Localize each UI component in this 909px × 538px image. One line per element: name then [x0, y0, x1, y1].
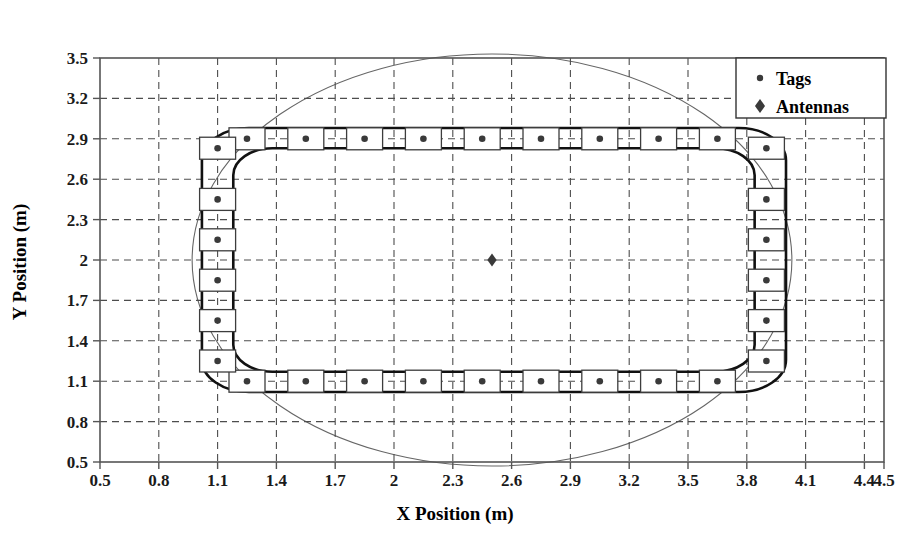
- x-tick-label: 3.8: [736, 471, 757, 490]
- tag-marker: [347, 128, 383, 150]
- y-tick-label: 2.6: [67, 170, 88, 189]
- tag-marker: [748, 269, 784, 291]
- y-tick-label: 1.1: [67, 372, 88, 391]
- tag-dot-icon: [655, 136, 662, 143]
- tag-dot-icon: [714, 136, 721, 143]
- tag-marker: [748, 229, 784, 251]
- tag-marker: [699, 128, 735, 150]
- x-tick-label: 1.4: [266, 471, 288, 490]
- tag-dot-icon: [214, 145, 221, 152]
- tag-marker: [200, 188, 236, 210]
- y-tick-label: 3.5: [67, 49, 88, 68]
- tag-dot-icon: [655, 378, 662, 385]
- tag-marker: [200, 269, 236, 291]
- tag-marker: [748, 350, 784, 372]
- tag-dot-icon: [763, 277, 770, 284]
- tag-marker: [405, 128, 441, 150]
- tag-marker: [464, 370, 500, 392]
- tag-dot-icon: [214, 358, 221, 365]
- tag-marker: [641, 128, 677, 150]
- y-tick-label: 2.9: [67, 130, 88, 149]
- tag-marker: [523, 370, 559, 392]
- x-tick-label: 3.5: [677, 471, 698, 490]
- tag-dot-icon: [214, 237, 221, 244]
- tag-dot-icon: [538, 378, 545, 385]
- tag-dot-icon: [763, 196, 770, 203]
- x-tick-label: 3.2: [619, 471, 640, 490]
- x-tick-label: 4.5: [873, 471, 894, 490]
- tag-dot-icon: [538, 136, 545, 143]
- x-tick-label: 0.5: [89, 471, 110, 490]
- tag-dot-icon: [303, 378, 310, 385]
- x-tick-label: 2: [390, 471, 399, 490]
- position-scatter-plot: 0.50.81.11.41.722.32.62.93.23.53.84.14.4…: [0, 0, 909, 538]
- tag-marker: [464, 128, 500, 150]
- tag-dot-icon: [361, 378, 368, 385]
- tag-marker: [523, 128, 559, 150]
- tag-dot-icon: [420, 378, 427, 385]
- y-tick-label: 0.8: [67, 413, 88, 432]
- x-tick-label: 4.1: [795, 471, 816, 490]
- tag-marker: [582, 128, 618, 150]
- tag-dot-icon: [214, 277, 221, 284]
- tag-dot-icon: [479, 378, 486, 385]
- tag-dot-icon: [214, 317, 221, 324]
- tag-marker: [200, 310, 236, 332]
- legend-label-antennas: Antennas: [776, 97, 849, 117]
- tag-marker: [288, 370, 324, 392]
- tag-marker: [229, 370, 265, 392]
- tag-dot-icon: [763, 358, 770, 365]
- x-tick-label: 1.7: [325, 471, 347, 490]
- x-tick-label: 4.4: [854, 471, 876, 490]
- tag-marker: [748, 137, 784, 159]
- x-tick-label: 2.3: [442, 471, 463, 490]
- chart-legend: TagsAntennas: [736, 58, 886, 118]
- tag-dot-icon: [763, 317, 770, 324]
- tag-marker: [200, 229, 236, 251]
- tag-dot-icon: [763, 237, 770, 244]
- x-axis-title: X Position (m): [396, 503, 513, 525]
- y-tick-label: 1.7: [67, 291, 89, 310]
- tag-marker: [699, 370, 735, 392]
- y-tick-label: 2.3: [67, 211, 88, 230]
- tag-dot-icon: [244, 378, 251, 385]
- tag-marker: [748, 310, 784, 332]
- tag-marker: [405, 370, 441, 392]
- tag-dot-icon: [479, 136, 486, 143]
- tag-dot-icon: [420, 136, 427, 143]
- tag-marker: [582, 370, 618, 392]
- x-tick-label: 0.8: [148, 471, 169, 490]
- tag-marker: [200, 350, 236, 372]
- tag-marker: [748, 188, 784, 210]
- y-tick-label: 3.2: [67, 89, 88, 108]
- y-tick-label: 1.4: [67, 332, 89, 351]
- tag-dot-icon: [763, 145, 770, 152]
- tag-dot-icon: [597, 378, 604, 385]
- tag-dot-icon: [597, 136, 604, 143]
- tag-marker: [641, 370, 677, 392]
- tag-marker: [288, 128, 324, 150]
- tag-dot-icon: [244, 136, 251, 143]
- tag-dot-icon: [214, 196, 221, 203]
- tag-dot-icon: [361, 136, 368, 143]
- y-tick-label: 0.5: [67, 453, 88, 472]
- tag-marker: [200, 137, 236, 159]
- tag-marker: [347, 370, 383, 392]
- tag-dot-icon: [303, 136, 310, 143]
- x-tick-label: 2.6: [501, 471, 522, 490]
- y-axis-title: Y Position (m): [9, 204, 31, 320]
- legend-tag-dot-icon: [757, 75, 763, 81]
- tag-dot-icon: [714, 378, 721, 385]
- y-tick-label: 2: [80, 251, 89, 270]
- x-tick-label: 1.1: [207, 471, 228, 490]
- chart-figure: 0.50.81.11.41.722.32.62.93.23.53.84.14.4…: [0, 0, 909, 538]
- x-tick-label: 2.9: [560, 471, 581, 490]
- legend-label-tags: Tags: [776, 69, 811, 89]
